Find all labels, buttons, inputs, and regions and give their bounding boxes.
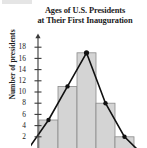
y-axis-arrowhead-icon [35, 34, 40, 39]
y-tick-label-18: 18 [14, 42, 26, 51]
y-tick-label-2: 2 [14, 132, 26, 141]
y-tick-label-10: 10 [14, 87, 26, 96]
chart-title: Ages of U.S. Presidents at Their First I… [26, 6, 144, 26]
y-tick-label-6: 6 [14, 110, 26, 119]
polygon-point-5 [122, 135, 126, 139]
bar-1 [39, 120, 58, 148]
scan-artifact [2, 0, 32, 4]
plot-area [31, 33, 147, 148]
bar-3 [77, 53, 96, 148]
polygon-point-4 [103, 101, 107, 105]
y-tick-label-16: 16 [14, 54, 26, 63]
bar-2 [58, 86, 77, 148]
chart-title-line-1: Ages of U.S. Presidents [26, 6, 144, 16]
polygon-point-1 [46, 118, 50, 122]
polygon-point-2 [65, 84, 69, 88]
histogram-bars [39, 53, 134, 148]
y-tick-label-12: 12 [14, 76, 26, 85]
y-tick-label-14: 14 [14, 65, 26, 74]
y-tick-label-4: 4 [14, 121, 26, 130]
polygon-point-3 [84, 50, 89, 55]
chart-title-line-2: at Their First Inauguration [26, 16, 144, 26]
y-tick-label-8: 8 [14, 98, 26, 107]
bar-4 [96, 103, 115, 148]
figure-histogram-presidents-ages: Ages of U.S. Presidents at Their First I… [0, 0, 147, 148]
